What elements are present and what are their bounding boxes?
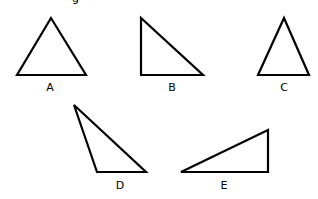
triangle-b-shape (141, 18, 203, 75)
triangle-c-label: C (280, 81, 288, 94)
triangle-a-shape (17, 18, 86, 75)
triangle-e: E (181, 130, 268, 192)
triangle-c-shape (258, 18, 309, 75)
triangle-d: D (74, 105, 146, 192)
triangles-diagram: g A B C D E (0, 0, 318, 199)
triangle-b-label: B (168, 81, 176, 94)
triangle-e-label: E (221, 179, 228, 192)
triangle-b: B (141, 18, 203, 94)
cut-off-heading-fragment: g (72, 0, 79, 5)
triangle-d-shape (74, 105, 146, 172)
triangle-c: C (258, 18, 309, 94)
triangle-e-shape (181, 130, 268, 172)
triangle-a: A (17, 18, 86, 94)
triangle-d-label: D (116, 179, 124, 192)
triangle-a-label: A (46, 81, 54, 94)
